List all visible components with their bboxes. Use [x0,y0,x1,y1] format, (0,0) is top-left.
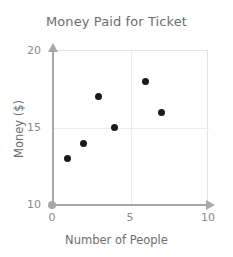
plot-area [52,50,208,205]
scatter-chart: Money Paid for Ticket 20 15 10 0 5 10 Nu… [0,0,233,257]
y-tick-label-10: 10 [13,198,41,211]
data-point [142,78,149,85]
chart-title: Money Paid for Ticket [0,14,233,29]
data-point [158,109,165,116]
y-axis-title: Money ($) [12,69,26,189]
x-axis-line [52,204,209,206]
x-tick-label-10: 10 [196,211,220,224]
gridline-horizontal-15 [53,128,209,129]
y-axis-line [52,52,54,205]
origin-dot [48,201,56,209]
data-point [80,140,87,147]
x-axis-arrow-icon [206,200,215,210]
y-tick-label-20: 20 [13,44,41,57]
x-tick-label-5: 5 [118,211,142,224]
x-axis-title: Number of People [0,233,233,247]
data-point [111,124,118,131]
y-axis-arrow-icon [48,43,58,52]
x-tick-label-0: 0 [40,211,64,224]
